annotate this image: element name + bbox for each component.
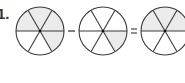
minuend-circle (16, 7, 64, 55)
subtrahend-circle (79, 7, 127, 55)
equals-operator (131, 29, 137, 33)
fraction-subtraction-diagram (0, 0, 185, 83)
difference-circle (141, 7, 185, 55)
